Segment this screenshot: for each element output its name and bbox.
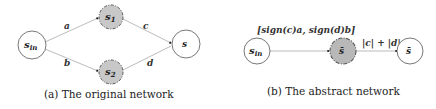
node-s2: s2 <box>99 60 123 84</box>
diagram-canvas: a b c d sin s1 s2 s (a) The original net… <box>0 0 436 109</box>
edge-b <box>45 49 98 71</box>
svg-text:s: s <box>182 39 187 49</box>
panel-b-abstract-network: [sign(c)a, sign(d)b] |c| + |d| sin s̄ s̄… <box>244 25 423 97</box>
edge-label-d: d <box>147 58 154 68</box>
edge-label-c: c <box>143 21 149 31</box>
caption-a: (a) The original network <box>44 88 174 100</box>
edge-label-abs-sum: |c| + |d| <box>362 38 401 49</box>
node-s-in-b: sin <box>244 38 270 64</box>
node-s-in: sin <box>18 31 46 59</box>
edge-label-sign: [sign(c)a, sign(d)b] <box>257 25 355 36</box>
node-s-bar: s̄ <box>330 38 356 64</box>
svg-text:s̄: s̄ <box>339 46 344 56</box>
node-s1: s1 <box>99 5 123 29</box>
caption-b: (b) The abstract network <box>267 85 400 97</box>
panel-a-original-network: a b c d sin s1 s2 s (a) The original net… <box>18 5 200 100</box>
edge-a <box>45 18 98 42</box>
node-s: s <box>172 30 200 58</box>
edge-label-a: a <box>64 21 70 31</box>
svg-text:s̄: s̄ <box>406 46 411 56</box>
node-s-out-bar: s̄ <box>397 38 423 64</box>
edge-label-b: b <box>64 58 70 68</box>
